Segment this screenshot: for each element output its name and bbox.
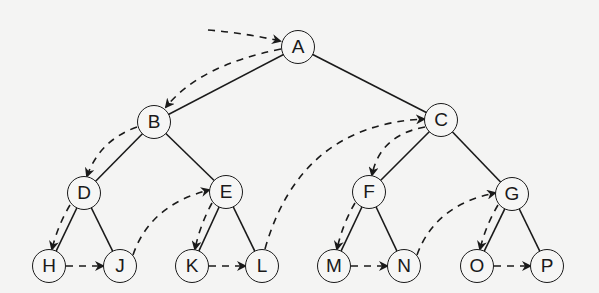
tree-edges: [49, 47, 547, 266]
tree-node-c: C: [424, 103, 458, 137]
tree-diagram: ABCDEFGHJKLMNOP: [0, 0, 599, 293]
edge-a-b: [154, 47, 298, 122]
traversal-arrow-a-b: [166, 49, 281, 107]
tree-node-a: A: [281, 30, 315, 64]
tree-node-j: J: [103, 249, 137, 283]
tree-node-d: D: [67, 176, 101, 210]
traversal-arrow-j-e: [133, 190, 209, 255]
traversal-arrow-b-d: [87, 127, 137, 176]
traversal-arrow-start-a: [208, 30, 280, 41]
tree-node-g: G: [495, 177, 529, 211]
tree-node-b: B: [137, 105, 171, 139]
tree-node-m: M: [317, 249, 351, 283]
edge-a-c: [298, 47, 441, 120]
traversal-arrow-c-f: [372, 127, 425, 175]
tree-node-k: K: [175, 249, 209, 283]
tree-node-p: P: [530, 249, 564, 283]
tree-node-n: N: [387, 249, 421, 283]
tree-node-o: O: [460, 249, 494, 283]
tree-node-h: H: [32, 249, 66, 283]
tree-node-l: L: [245, 249, 279, 283]
traversal-arrow-l-c: [265, 119, 424, 249]
tree-node-e: E: [209, 175, 243, 209]
tree-node-f: F: [352, 175, 386, 209]
traversal-arrow-n-g: [417, 193, 495, 255]
traversal-arrows: [52, 30, 530, 266]
